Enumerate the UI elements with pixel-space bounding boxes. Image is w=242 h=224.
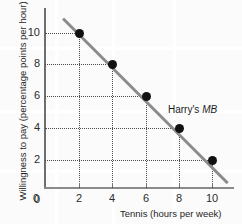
data-point-2-10 — [75, 29, 84, 38]
x-tick-label-10: 10 — [197, 192, 227, 204]
chart-figure: 10 8 6 4 2 0 0 2 4 6 8 10 Tennis (hours … — [0, 0, 242, 224]
x-tick-label-6: 6 — [131, 192, 161, 204]
data-point-4-8 — [108, 60, 117, 69]
x-tick-mark-4 — [112, 183, 113, 187]
x-axis-title: Tennis (hours per week) — [120, 208, 221, 219]
guide-line-y10 — [45, 33, 79, 34]
x-tick-label-8: 8 — [164, 192, 194, 204]
data-point-6-6 — [142, 92, 151, 101]
x-tick-mark-6 — [146, 183, 147, 187]
x-tick-mark-10 — [212, 183, 213, 187]
y-axis-title: Willingness to pay (percentage points pe… — [17, 11, 28, 201]
series-annotation-emphasis: MB — [202, 104, 217, 115]
guide-line-x4 — [112, 64, 113, 188]
series-annotation-text: Harry's — [168, 104, 202, 115]
x-tick-mark-8 — [179, 183, 180, 187]
data-point-10-2 — [208, 156, 217, 165]
guide-line-x6 — [146, 96, 147, 188]
guide-line-y2 — [45, 160, 212, 161]
x-tick-mark-2 — [79, 183, 80, 187]
series-annotation-harrys-mb: Harry's MB — [168, 104, 217, 115]
x-tick-label-4: 4 — [97, 192, 127, 204]
data-point-8-4 — [175, 124, 184, 133]
x-tick-label-2: 2 — [64, 192, 94, 204]
plot-area — [45, 8, 228, 188]
guide-line-y6 — [45, 96, 146, 97]
guide-line-x2 — [79, 33, 80, 188]
